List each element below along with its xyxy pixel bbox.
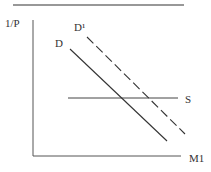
diagram-canvas — [0, 0, 211, 172]
demand-line-d1-dashed — [87, 37, 185, 134]
curve-label-d1: D¹ — [74, 22, 85, 33]
demand-line-d — [70, 49, 167, 141]
y-axis-label: 1/P — [5, 18, 20, 29]
curve-label-d: D — [55, 38, 63, 49]
x-axis-label: M1 — [189, 153, 204, 164]
curve-label-s: S — [185, 94, 191, 105]
